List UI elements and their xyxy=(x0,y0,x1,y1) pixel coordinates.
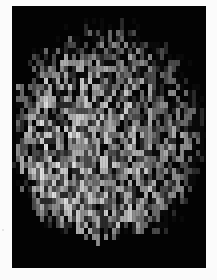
mosaic-cell xyxy=(156,228,160,234)
mosaic-cell xyxy=(136,228,140,234)
dust-speck xyxy=(2,229,4,231)
mosaic-cell xyxy=(188,60,192,66)
mosaic-cell xyxy=(180,216,184,222)
mosaic-cell xyxy=(200,96,204,102)
mosaic-cell xyxy=(172,216,176,222)
mosaic-cell xyxy=(204,150,206,162)
mosaic-cell xyxy=(124,228,128,234)
mosaic-cell xyxy=(184,198,188,204)
image-frame xyxy=(12,6,206,268)
mosaic-cell xyxy=(104,234,108,240)
mosaic-cell xyxy=(20,186,24,192)
mosaic-cell xyxy=(60,228,64,234)
mosaic-cell xyxy=(92,18,96,24)
mosaic-cell xyxy=(172,198,176,210)
mosaic-cell xyxy=(160,48,164,60)
mosaic-cell xyxy=(196,168,200,174)
mosaic-cell xyxy=(56,36,60,42)
mosaic-cell xyxy=(172,126,176,138)
mosaic-cell xyxy=(180,54,184,60)
mosaic-cell xyxy=(96,234,100,246)
mosaic-cell xyxy=(116,234,120,240)
pixel-mosaic xyxy=(12,6,206,268)
mosaic-cell xyxy=(164,228,168,234)
mosaic-cell xyxy=(164,42,168,54)
mosaic-cell xyxy=(48,222,52,228)
mosaic-cell xyxy=(188,186,192,192)
mosaic-cell xyxy=(192,90,196,102)
mosaic-cell xyxy=(136,24,140,30)
mosaic-cell xyxy=(64,24,68,30)
mosaic-cell xyxy=(68,222,72,228)
mosaic-cell xyxy=(196,84,200,90)
mosaic-cell xyxy=(164,210,168,222)
mosaic-cell xyxy=(204,108,206,120)
mosaic-cell xyxy=(120,18,124,30)
mosaic-cell xyxy=(108,30,112,42)
mosaic-cell xyxy=(100,18,104,30)
mosaic-cell xyxy=(204,132,206,138)
mosaic-cell xyxy=(184,78,188,84)
mosaic-cell xyxy=(200,156,204,162)
mosaic-cell xyxy=(192,180,196,186)
mosaic-cell xyxy=(84,234,88,240)
